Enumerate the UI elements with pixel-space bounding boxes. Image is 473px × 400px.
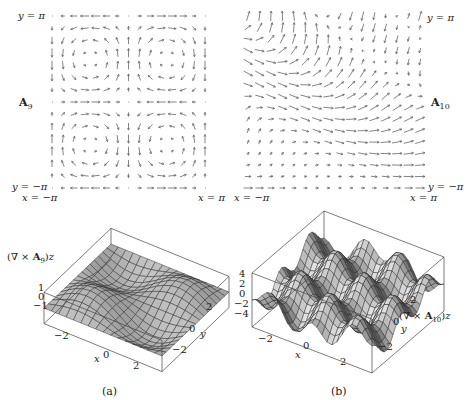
b-caption: (b) bbox=[331, 385, 347, 398]
a-y-bottom-label: y = −π bbox=[12, 181, 47, 192]
b-y-top-label: y = π bbox=[427, 12, 454, 23]
a-y-tick-2: 2 bbox=[206, 301, 212, 312]
b-y-bottom-label: y = −π bbox=[428, 181, 463, 192]
b-y-axis-label: y bbox=[401, 323, 407, 334]
a-y-top-label: y = π bbox=[18, 10, 45, 21]
b-x-right-label: x = π bbox=[410, 192, 437, 203]
a-x-tick-2: 2 bbox=[133, 360, 139, 371]
b-y-tick-neg2: −2 bbox=[378, 341, 393, 352]
b-surface-label: (∇ × A10)z bbox=[399, 310, 451, 324]
a-field-label: A9 bbox=[19, 96, 33, 111]
a-x-tick-neg2: −2 bbox=[54, 330, 69, 341]
b-x-axis-label: x bbox=[295, 349, 301, 360]
b-y-tick-2: 2 bbox=[410, 294, 416, 305]
b-field-label: A10 bbox=[431, 96, 450, 111]
a-caption: (a) bbox=[102, 385, 117, 398]
a-x-axis-label: x bbox=[94, 353, 100, 364]
a-surface-label: (∇ × A9)z bbox=[7, 251, 54, 265]
a-y-tick-neg2: −2 bbox=[172, 344, 187, 355]
b-x-left-label: x = −π bbox=[234, 192, 269, 203]
b-y-tick-0: 0 bbox=[393, 316, 399, 327]
b-z-tick-neg4: −4 bbox=[234, 308, 249, 319]
a-y-axis-label: y bbox=[200, 328, 206, 339]
a-y-tick-0: 0 bbox=[189, 323, 195, 334]
b-x-tick-neg2: −2 bbox=[258, 333, 273, 344]
a-x-tick-0: 0 bbox=[103, 349, 109, 360]
b-x-tick-0: 0 bbox=[303, 340, 309, 351]
a-z-tick-neg1: −1 bbox=[33, 300, 48, 311]
a-x-left-label: x = −π bbox=[22, 192, 57, 203]
b-x-tick-2: 2 bbox=[340, 356, 346, 367]
a-x-right-label: x = π bbox=[198, 192, 225, 203]
